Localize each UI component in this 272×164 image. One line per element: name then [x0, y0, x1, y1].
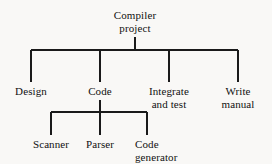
node-design: Design — [15, 85, 47, 98]
node-parser: Parser — [86, 138, 114, 151]
node-label-line: Compiler — [114, 9, 156, 22]
work-breakdown-structure-diagram: Compiler project Design Code Integrate a… — [0, 0, 272, 164]
node-label-line: Write — [222, 85, 255, 98]
node-label-line: manual — [222, 98, 255, 111]
node-label-line: Parser — [86, 138, 114, 151]
node-label-line: Integrate — [149, 85, 189, 98]
node-label-line: Scanner — [33, 138, 69, 151]
node-write-manual: Write manual — [222, 85, 255, 110]
node-label-line: project — [114, 22, 156, 35]
node-compiler-project: Compiler project — [114, 9, 156, 34]
node-scanner: Scanner — [33, 138, 69, 151]
node-integrate-and-test: Integrate and test — [149, 85, 189, 110]
node-code: Code — [88, 85, 112, 98]
node-label-line: Code — [135, 138, 177, 151]
node-label-line: Design — [15, 85, 47, 98]
node-label-line: Code — [88, 85, 112, 98]
node-code-generator: Code generator — [135, 138, 177, 163]
node-label-line: and test — [149, 98, 189, 111]
node-label-line: generator — [135, 151, 177, 164]
